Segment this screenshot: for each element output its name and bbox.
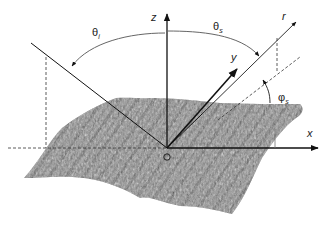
- rough-surface: [24, 98, 303, 214]
- theta-s-subscript: s: [219, 27, 223, 34]
- r-label: r: [282, 11, 286, 22]
- theta-s-arc: [167, 31, 259, 56]
- y-axis-label: y: [231, 52, 237, 63]
- phi-s-label: φs: [278, 92, 289, 105]
- x-axis-label: x: [307, 128, 313, 139]
- phi-s-arc: [263, 80, 270, 103]
- theta-i-label: θi: [92, 27, 100, 40]
- theta-s-label: θs: [213, 21, 223, 34]
- phi-s-subscript: s: [285, 98, 289, 105]
- scattering-diagram: [0, 0, 325, 228]
- theta-i-arc: [72, 33, 165, 66]
- theta-i-subscript: i: [98, 33, 100, 40]
- z-axis-label: z: [151, 12, 157, 23]
